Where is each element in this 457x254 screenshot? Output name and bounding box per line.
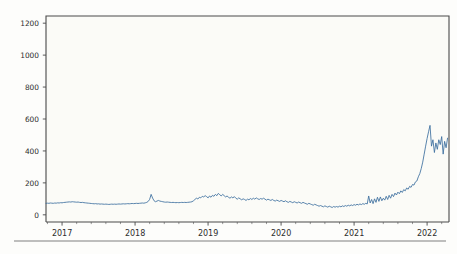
x-axis-tick-label: 2017 bbox=[52, 229, 72, 238]
screenshot-root: 020040060080010001200 201720182019202020… bbox=[0, 0, 457, 254]
y-axis-tick-label: 1200 bbox=[20, 19, 39, 28]
chart-figure: 020040060080010001200 201720182019202020… bbox=[0, 0, 457, 254]
plot-area-background bbox=[46, 16, 449, 222]
y-axis-tick-label: 200 bbox=[25, 179, 39, 188]
y-axis-tick-label: 800 bbox=[25, 83, 39, 92]
y-axis-tick-labels: 020040060080010001200 bbox=[20, 19, 39, 220]
line-chart: 020040060080010001200 201720182019202020… bbox=[0, 0, 457, 254]
y-axis-tick-label: 1000 bbox=[20, 51, 39, 60]
x-axis-tick-labels: 201720182019202020212022 bbox=[52, 229, 437, 238]
y-axis-tick-label: 400 bbox=[25, 147, 39, 156]
y-axis-tick-label: 600 bbox=[25, 115, 39, 124]
x-axis-tick-label: 2022 bbox=[417, 229, 437, 238]
x-axis-tick-label: 2021 bbox=[344, 229, 364, 238]
x-axis-tick-label: 2019 bbox=[198, 229, 218, 238]
x-axis-tick-label: 2020 bbox=[271, 229, 291, 238]
x-axis-tick-label: 2018 bbox=[125, 229, 145, 238]
y-axis-tick-label: 0 bbox=[34, 211, 39, 220]
